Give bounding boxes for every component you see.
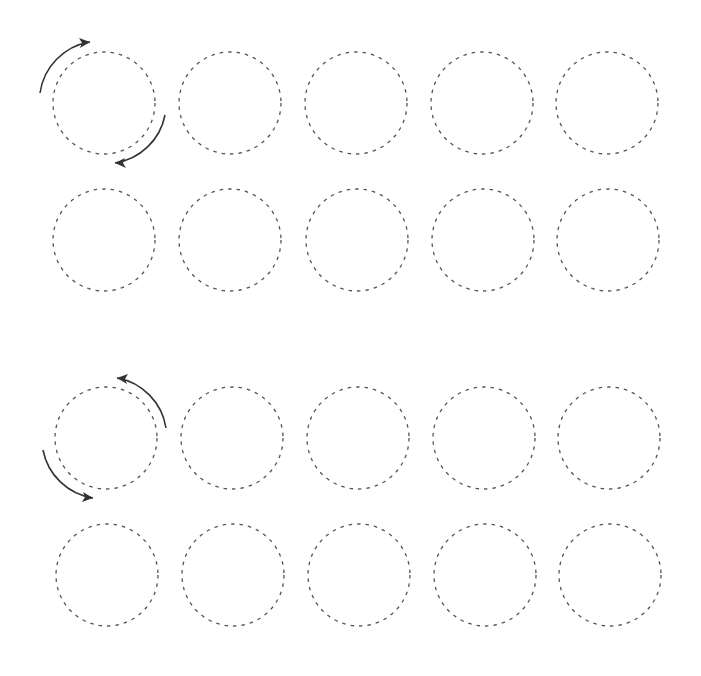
dashed-circle xyxy=(558,387,660,489)
dashed-circle xyxy=(557,189,659,291)
dashed-circle xyxy=(55,387,157,489)
dashed-circle xyxy=(431,52,533,154)
dashed-circle xyxy=(433,387,535,489)
section-counter-clockwise xyxy=(43,374,661,626)
dashed-circle xyxy=(305,52,407,154)
dashed-circle xyxy=(56,524,158,626)
dashed-circle xyxy=(182,524,284,626)
counter-clockwise-arrow-icon xyxy=(43,450,93,498)
dashed-circle xyxy=(432,189,534,291)
section-clockwise xyxy=(40,38,659,291)
counter-clockwise-arrow-icon xyxy=(117,378,166,428)
dashed-circle xyxy=(181,387,283,489)
dashed-circle xyxy=(556,52,658,154)
dashed-circle xyxy=(53,52,155,154)
dashed-circle xyxy=(179,52,281,154)
dashed-circle xyxy=(434,524,536,626)
dashed-circle xyxy=(307,387,409,489)
dashed-circle xyxy=(308,524,410,626)
dashed-circle xyxy=(306,189,408,291)
clockwise-arrow-icon xyxy=(40,42,90,93)
dashed-circle xyxy=(53,189,155,291)
arrowhead-icon xyxy=(115,158,126,168)
dashed-circle xyxy=(179,189,281,291)
clockwise-arrow-icon xyxy=(115,115,165,163)
dashed-circle xyxy=(559,524,661,626)
tracing-worksheet xyxy=(0,0,701,676)
